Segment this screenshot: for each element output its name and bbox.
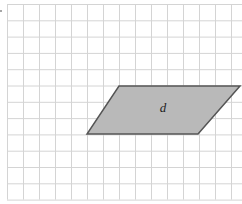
- grid-diagram: d: [0, 0, 242, 204]
- corner-mark: [0, 10, 2, 12]
- grid-figure: d: [0, 0, 242, 204]
- shape-label: d: [160, 100, 167, 115]
